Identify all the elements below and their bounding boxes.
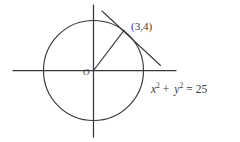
origin-label: O	[83, 68, 90, 77]
radius-line	[94, 30, 125, 70]
equation-x-exponent: 2	[156, 81, 160, 90]
equation-value: 25	[196, 83, 208, 95]
equation-plus-sign: +	[163, 83, 170, 95]
geometry-figure: O (3,4) x2+y2=25	[0, 0, 240, 142]
equation-y-exponent: 2	[179, 81, 183, 90]
diagram-canvas	[0, 0, 240, 142]
equation-equals-sign: =	[186, 83, 193, 95]
circle-equation-label: x2+y2=25	[151, 84, 207, 96]
point-label: (3,4)	[131, 21, 152, 32]
